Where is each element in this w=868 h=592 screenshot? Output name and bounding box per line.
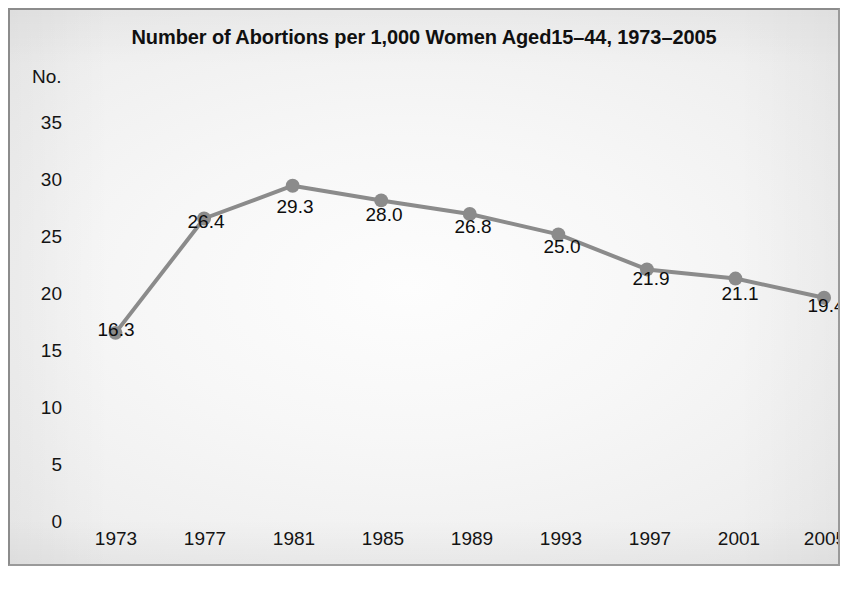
x-tick-1989: 1989 — [432, 528, 512, 550]
value-label-1997: 21.9 — [616, 268, 686, 290]
x-tick-1985: 1985 — [343, 528, 423, 550]
value-label-1993: 25.0 — [527, 236, 597, 258]
y-tick-25: 25 — [8, 226, 62, 248]
value-label-1989: 26.8 — [438, 216, 508, 238]
y-tick-0: 0 — [8, 511, 62, 533]
x-tick-1977: 1977 — [165, 528, 245, 550]
x-tick-2005: 2005 — [785, 528, 840, 550]
series-markers — [109, 179, 832, 340]
x-tick-1973: 1973 — [76, 528, 156, 550]
value-label-1981: 29.3 — [260, 196, 330, 218]
y-tick-10: 10 — [8, 397, 62, 419]
x-tick-1997: 1997 — [610, 528, 690, 550]
chart-figure: Number of Abortions per 1,000 Women Aged… — [8, 8, 840, 566]
chart-title: Number of Abortions per 1,000 Women Aged… — [10, 26, 838, 49]
data-point-1981 — [286, 179, 300, 193]
y-tick-30: 30 — [8, 169, 62, 191]
value-label-2005: 19.4 — [791, 295, 840, 317]
x-tick-1993: 1993 — [521, 528, 601, 550]
y-tick-15: 15 — [8, 340, 62, 362]
x-tick-2001: 2001 — [699, 528, 779, 550]
value-label-1973: 16.3 — [81, 319, 151, 341]
y-axis-caption: No. — [32, 66, 102, 88]
value-label-1985: 28.0 — [349, 204, 419, 226]
y-tick-20: 20 — [8, 283, 62, 305]
value-label-1977: 26.4 — [171, 211, 241, 233]
x-tick-1981: 1981 — [254, 528, 334, 550]
value-label-2001: 21.1 — [705, 283, 775, 305]
y-tick-5: 5 — [8, 454, 62, 476]
y-tick-35: 35 — [8, 112, 62, 134]
